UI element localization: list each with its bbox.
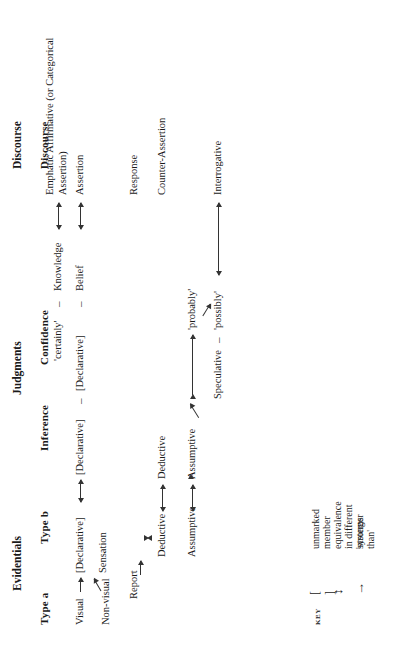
arrow-report-to-deductive: [140, 561, 141, 575]
arrow-typeb-declarative-to-inference-declarative: [80, 480, 81, 502]
arrow-visual-to-declarative: [80, 578, 81, 592]
column-heading-inference: Inference: [38, 405, 51, 451]
group-heading-judgments: Judgments: [10, 341, 24, 395]
confidence-knowledge: Knowledge: [52, 243, 65, 291]
column-heading-confidence: Confidence: [38, 310, 51, 365]
evidential-type-a-deductive: Deductive: [156, 514, 169, 557]
key-item-unmarked-member: unmarked member: [310, 509, 332, 549]
dash-inference-confidence: –: [74, 399, 87, 405]
linguistic-systems-diagram: Evidentials Judgments Discourse Type a T…: [0, 0, 393, 647]
confidence-declarative: [Declarative]: [74, 336, 87, 391]
key-item-stronger-than: 'stronger than': [354, 514, 376, 549]
arrow-assumptive-to-speculative: [190, 404, 199, 418]
evidential-type-b-declarative: [Declarative]: [74, 518, 87, 573]
discourse-counter-assertion: Counter-Assertion: [156, 118, 169, 195]
confidence-probably: 'probably': [186, 289, 199, 330]
arrow-knowledge-to-emphatic-affirmative: [58, 203, 59, 229]
arrow-possibly-to-interrogative: [218, 203, 219, 275]
group-heading-evidentials: Evidentials: [10, 536, 24, 591]
evidential-type-a-assumptive: Assumptive: [186, 507, 199, 557]
arrow-belief-to-assertion: [80, 203, 81, 229]
dash-declarative-belief: –: [74, 302, 87, 308]
column-heading-type-b: Type b: [38, 511, 51, 544]
dash-speculative-possibly: –: [212, 338, 225, 344]
key-title: KEY: [314, 608, 322, 625]
dash-certainly-knowledge: –: [52, 302, 65, 308]
evidential-type-b-speculative: Speculative: [212, 350, 225, 399]
evidential-type-a-visual: Visual: [74, 598, 87, 625]
evidential-type-b-assumptive: Assumptive: [186, 429, 199, 479]
confidence-certainly: 'certainly': [52, 320, 65, 361]
evidential-type-b-sensation: Sensation: [97, 532, 110, 573]
key-symbol-double-arrow: ↕: [330, 589, 346, 596]
discourse-interrogative: Interrogative: [212, 141, 225, 195]
arrow-probably-to-possibly: [202, 304, 210, 316]
evidential-type-a-non-visual: Non-visual: [100, 578, 113, 625]
discourse-assertion: Assertion: [74, 155, 87, 195]
arrow-deductive-a-to-deductive-b: [162, 485, 163, 511]
column-heading-type-a: Type a: [38, 593, 51, 625]
confidence-possibly: 'possibly': [212, 291, 225, 330]
arrow-confidence-to-probably: [192, 335, 193, 395]
inference-declarative: [Declarative]: [74, 420, 87, 475]
evidential-type-a-report: Report: [128, 570, 141, 599]
key-symbol-single-arrow: →: [352, 582, 368, 595]
discourse-emphatic-affirmative: Emphatic Affirmative (or Categorical Ass…: [44, 20, 70, 195]
evidential-type-b-deductive: Deductive: [156, 436, 169, 479]
discourse-response: Response: [128, 155, 141, 195]
group-heading-discourse: Discourse: [10, 121, 24, 169]
arrow-assumptive-a-to-assumptive-b: [192, 485, 193, 511]
confidence-belief: Belief: [74, 265, 87, 291]
